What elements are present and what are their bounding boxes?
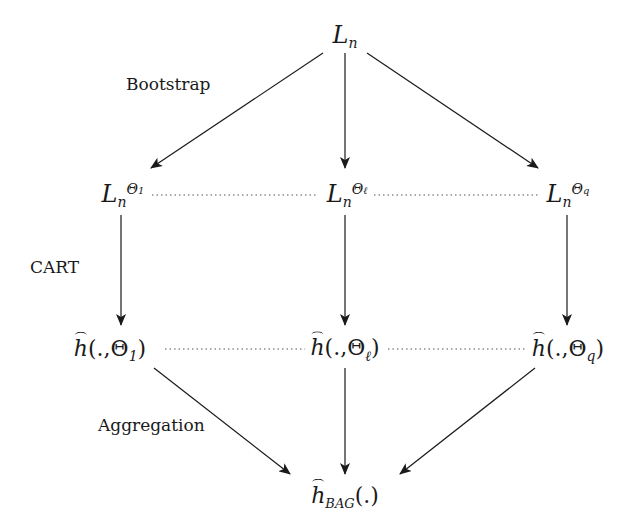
- node-root-sample: Ln: [333, 21, 358, 51]
- edge-root-boot1: [151, 53, 323, 168]
- label-bootstrap: Bootstrap: [126, 74, 211, 94]
- args: (.,Θ: [546, 336, 587, 361]
- subscript: n: [563, 194, 572, 210]
- hat-h: h: [74, 336, 88, 361]
- theta: Θ: [127, 180, 138, 196]
- node-bagging-aggregate: hBAG(.): [311, 483, 379, 511]
- superscript: Θ1: [127, 180, 145, 196]
- superscript: Θq: [572, 180, 590, 196]
- label-cart: CART: [30, 257, 79, 277]
- close-paren: ): [371, 335, 380, 360]
- index: q: [587, 348, 596, 364]
- edges-layer: [0, 0, 631, 532]
- node-bootstrap-1: LnΘ1: [102, 180, 145, 210]
- symbol: L: [333, 21, 349, 49]
- superscript: Θℓ: [352, 180, 368, 196]
- args: (.,Θ: [325, 335, 366, 360]
- close-paren: ): [138, 336, 147, 361]
- edge-root-bootq: [367, 53, 538, 168]
- hat-h: h: [310, 335, 324, 360]
- subscript: n: [118, 194, 127, 210]
- index: 1: [138, 184, 144, 195]
- hat-h: h: [311, 483, 325, 508]
- index: q: [583, 184, 589, 195]
- node-bootstrap-l: LnΘℓ: [327, 180, 368, 210]
- theta: Θ: [352, 180, 363, 196]
- node-tree-q: h(.,Θq): [532, 336, 604, 364]
- subscript: BAG: [325, 496, 354, 511]
- edge-hq-hbag: [400, 368, 535, 474]
- hat-h: h: [532, 336, 546, 361]
- subscript: n: [343, 194, 352, 210]
- close-paren: ): [596, 336, 605, 361]
- symbol: L: [102, 180, 118, 208]
- symbol: L: [327, 180, 343, 208]
- node-tree-1: h(.,Θ1): [74, 336, 146, 364]
- index: 1: [129, 348, 138, 364]
- label-aggregation: Aggregation: [98, 415, 205, 435]
- symbol: L: [547, 180, 563, 208]
- args: (.,Θ: [88, 336, 129, 361]
- subscript: n: [348, 35, 357, 51]
- theta: Θ: [572, 180, 583, 196]
- node-bootstrap-q: LnΘq: [547, 180, 590, 210]
- index: ℓ: [363, 184, 367, 195]
- node-tree-l: h(.,Θℓ): [310, 335, 379, 364]
- args: (.): [355, 483, 379, 508]
